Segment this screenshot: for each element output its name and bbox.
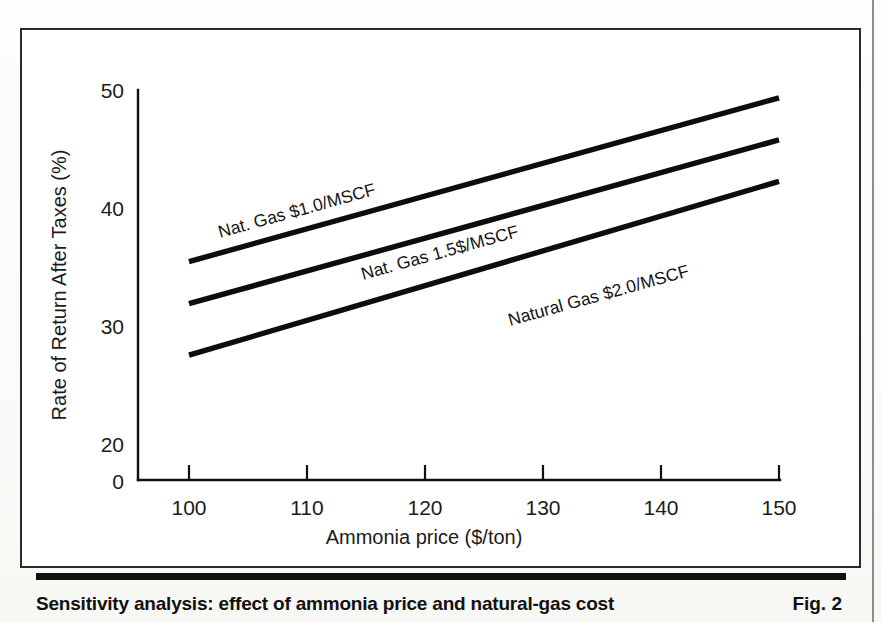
y-tick-label-50: 50 bbox=[101, 79, 124, 102]
page-column-rule bbox=[872, 0, 874, 622]
series-label-natural-gas-2-0: Natural Gas $2.0/MSCF bbox=[506, 261, 691, 330]
x-axis-title: Ammonia price ($/ton) bbox=[326, 526, 523, 548]
y-tick-label-30: 30 bbox=[101, 315, 124, 338]
x-tick-label-110: 110 bbox=[290, 496, 323, 519]
y-tick-label-40: 40 bbox=[101, 197, 124, 220]
chart-plot-area: 50 40 30 20 0 100 110 120 130 140 150 Am… bbox=[20, 28, 861, 568]
figure-page: 50 40 30 20 0 100 110 120 130 140 150 Am… bbox=[0, 0, 881, 622]
caption-row: Sensitivity analysis: effect of ammonia … bbox=[36, 590, 856, 618]
y-tick-label-20: 20 bbox=[101, 433, 124, 456]
y-tick-label-0: 0 bbox=[112, 470, 124, 493]
x-tick-label-120: 120 bbox=[407, 496, 442, 519]
x-tick-label-150: 150 bbox=[761, 496, 796, 519]
figure-caption: Sensitivity analysis: effect of ammonia … bbox=[36, 593, 614, 615]
x-tick-label-140: 140 bbox=[643, 496, 678, 519]
x-tick-label-100: 100 bbox=[171, 496, 206, 519]
y-axis-title: Rate of Return After Taxes (%) bbox=[48, 150, 70, 421]
chart-svg: 50 40 30 20 0 100 110 120 130 140 150 Am… bbox=[20, 28, 861, 568]
x-tick-label-130: 130 bbox=[525, 496, 560, 519]
figure-number: Fig. 2 bbox=[792, 593, 856, 615]
caption-divider-rule bbox=[36, 573, 846, 580]
